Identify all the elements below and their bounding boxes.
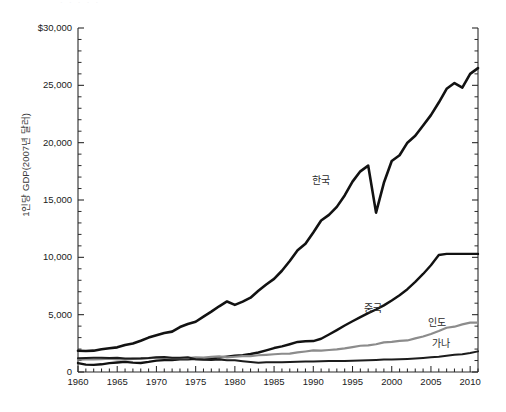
chart-figure: · · · · · 1인당 GDP(2007년 달러) $30,00025,00…	[0, 0, 506, 412]
series-label-india: 인도	[428, 314, 446, 329]
plot-area	[0, 0, 506, 412]
series-label-china: 중국	[364, 300, 382, 315]
series-line-china	[78, 254, 478, 365]
series-label-korea: 한국	[312, 172, 330, 187]
series-label-ghana: 가나	[432, 335, 450, 350]
series-line-korea	[78, 68, 478, 351]
